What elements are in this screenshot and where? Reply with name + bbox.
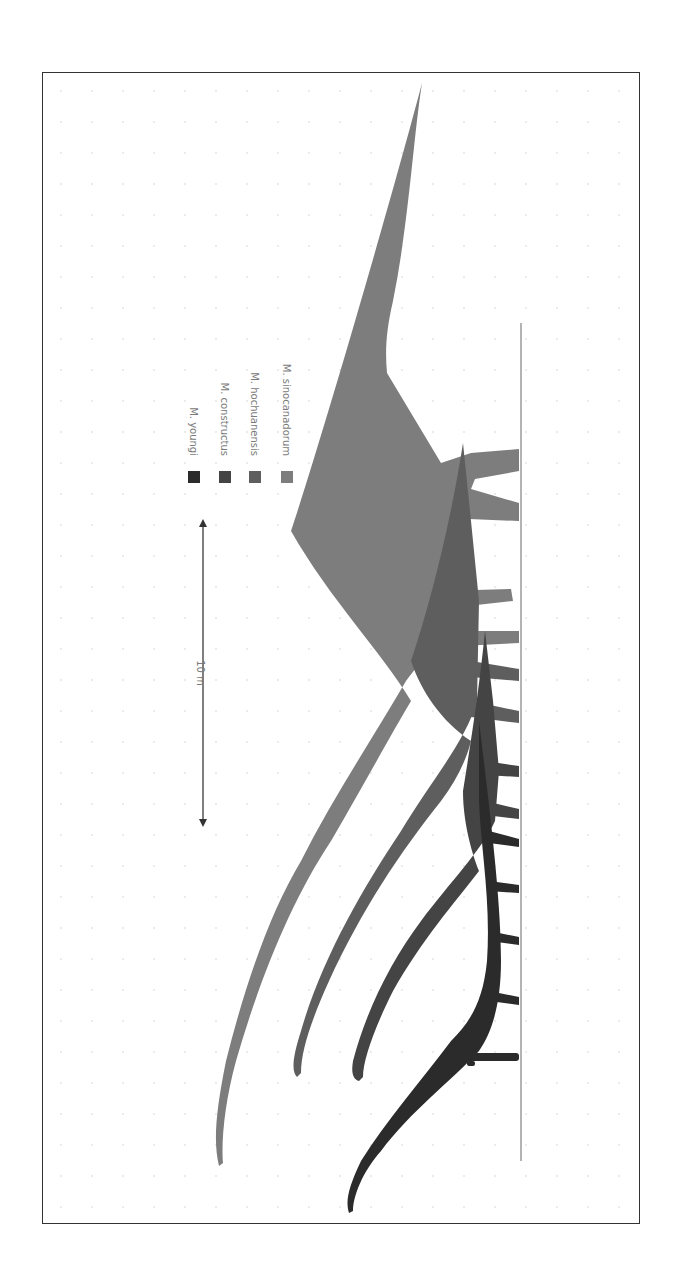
silhouette-human — [463, 1053, 519, 1066]
legend-label-sinocanadorum: M. sinocanadorum — [281, 364, 292, 456]
legend-swatch-hochuanensis — [249, 471, 261, 483]
legend: M. youngi M. constructus M. hochuanensis… — [188, 364, 293, 483]
legend-swatch-sinocanadorum — [281, 471, 293, 483]
scale-bar: 10 m — [195, 519, 207, 827]
size-comparison-figure: 10 m M. youngi M. constructus M. hochuan… — [42, 72, 640, 1224]
legend-label-hochuanensis: M. hochuanensis — [249, 372, 260, 456]
grid-dots — [60, 90, 620, 1208]
diagram-canvas: 10 m M. youngi M. constructus M. hochuan… — [43, 73, 641, 1225]
legend-label-youngi: M. youngi — [188, 407, 199, 456]
legend-label-constructus: M. constructus — [219, 383, 230, 457]
legend-swatch-constructus — [219, 471, 231, 483]
legend-swatch-youngi — [188, 471, 200, 483]
scale-bar-label: 10 m — [195, 660, 206, 686]
